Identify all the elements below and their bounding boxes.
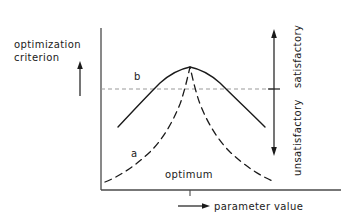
satisfactory-range-label: satisfactory [292, 25, 303, 88]
curve-a-label: a [131, 148, 138, 160]
x-axis-direction-arrow-head [202, 203, 210, 209]
curve-b-label: b [134, 71, 141, 83]
x-axis-label: parameter value [214, 201, 303, 213]
figure-container: optimization criterion parameter value o… [0, 0, 350, 223]
y-axis-label: optimization criterion [14, 38, 81, 64]
unsatisfactory-range-label: unsatisfactory [292, 99, 303, 176]
curve-a-sharp-peak [105, 67, 275, 182]
optimum-tick-label: optimum [165, 169, 213, 181]
right-range-arrow-head-up [271, 29, 277, 38]
right-range-arrow-head-down [271, 147, 277, 156]
